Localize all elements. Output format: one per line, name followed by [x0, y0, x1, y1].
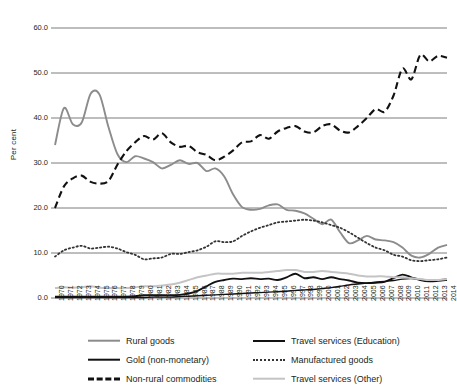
legend-item[interactable]: Rural goods	[88, 331, 217, 350]
x-tick-label: 2013	[441, 285, 448, 301]
x-tick-label: 1977	[120, 285, 127, 301]
x-tick-label: 1999	[316, 285, 323, 301]
x-tick-label: 1993	[263, 285, 270, 301]
line-swatch-solid-black-thin	[253, 336, 285, 346]
x-tick-label: 1994	[272, 285, 279, 301]
legend-label: Gold (non-monetary)	[126, 355, 209, 365]
x-tick-label: 2006	[379, 285, 386, 301]
x-tick-label: 1970	[58, 285, 65, 301]
x-tick-label: 2002	[343, 285, 350, 301]
x-tick-label: 2001	[334, 285, 341, 301]
x-tick-label: 2011	[423, 286, 430, 301]
x-tick-label: 1984	[183, 285, 190, 301]
x-tick-label: 1982	[165, 285, 172, 301]
x-tick-label: 2005	[370, 285, 377, 301]
legend-label: Manufactured goods	[291, 355, 373, 365]
x-tick-label: 1983	[174, 285, 181, 301]
x-tick-label: 1989	[227, 285, 234, 301]
line-swatch-dotted-dark	[253, 355, 285, 365]
legend-item[interactable]: Travel services (Other)	[253, 369, 400, 388]
x-tick-label: 2010	[414, 285, 421, 301]
series-line	[55, 54, 447, 208]
x-tick-label: 2012	[432, 285, 439, 301]
legend-label: Rural goods	[126, 336, 175, 346]
line-swatch-solid-black	[88, 355, 120, 365]
x-tick-label: 2008	[397, 285, 404, 301]
x-tick-label: 1996	[290, 285, 297, 301]
x-tick-label: 1997	[299, 285, 306, 301]
legend-item[interactable]: Manufactured goods	[253, 350, 400, 369]
legend-item[interactable]: Travel services (Education)	[253, 331, 400, 350]
x-tick-label: 1981	[156, 285, 163, 301]
line-swatch-dashed-black	[88, 374, 120, 384]
x-tick-label: 2014	[450, 285, 457, 301]
x-tick-label: 1975	[103, 285, 110, 301]
x-tick-label: 1972	[76, 285, 83, 301]
x-tick-label: 1978	[129, 285, 136, 301]
legend-label: Travel services (Other)	[291, 374, 382, 384]
x-tick-label: 1991	[245, 285, 252, 301]
x-tick-label: 1998	[307, 285, 314, 301]
x-tick-label: 2004	[361, 285, 368, 301]
x-tick-label: 2009	[405, 285, 412, 301]
x-tick-label: 1974	[94, 285, 101, 301]
x-tick-label: 1992	[254, 285, 261, 301]
line-swatch-solid-lightgray	[253, 374, 285, 384]
x-tick-label: 2000	[325, 285, 332, 301]
x-tick-label: 1986	[201, 285, 208, 301]
legend-label: Non-rural commodities	[126, 374, 217, 384]
legend-item[interactable]: Gold (non-monetary)	[88, 350, 217, 369]
x-tick-label: 1988	[218, 285, 225, 301]
x-tick-label: 1980	[147, 285, 154, 301]
x-tick-label: 1987	[209, 285, 216, 301]
legend-item[interactable]: Non-rural commodities	[88, 369, 217, 388]
chart-legend: Rural goodsGold (non-monetary)Non-rural …	[0, 331, 455, 390]
x-tick-label: 1990	[236, 285, 243, 301]
x-tick-label: 1979	[138, 285, 145, 301]
x-tick-label: 2007	[388, 285, 395, 301]
x-tick-label: 1971	[67, 285, 74, 301]
line-swatch-solid-gray	[88, 336, 120, 346]
x-tick-label: 1976	[111, 285, 118, 301]
legend-label: Travel services (Education)	[291, 336, 400, 346]
legend-column-right: Travel services (Education)Manufactured …	[253, 331, 400, 388]
x-tick-label: 1995	[281, 285, 288, 301]
x-tick-label: 1985	[192, 285, 199, 301]
x-tick-label: 1973	[85, 285, 92, 301]
x-tick-label: 2003	[352, 285, 359, 301]
legend-column-left: Rural goodsGold (non-monetary)Non-rural …	[88, 331, 217, 388]
